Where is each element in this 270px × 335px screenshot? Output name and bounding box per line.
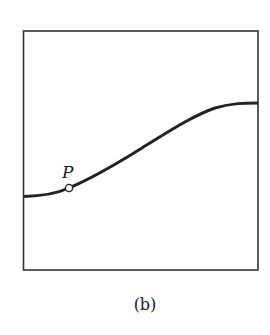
point-p-marker	[65, 184, 72, 191]
figure: P (b)	[0, 0, 270, 335]
s-curve	[24, 103, 258, 197]
figure-svg: P (b)	[0, 0, 270, 335]
point-p-label: P	[61, 162, 74, 182]
figure-caption: (b)	[134, 295, 157, 314]
